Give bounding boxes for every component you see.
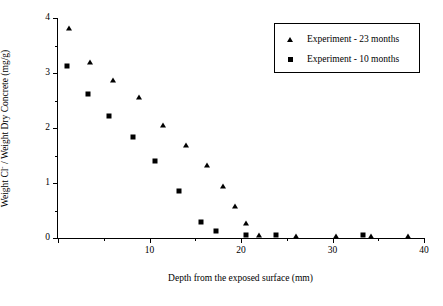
x-axis-tick <box>424 238 425 243</box>
y-axis-minor-tick <box>55 156 58 157</box>
scatter-chart: 0123410203040 Depth from the exposed sur… <box>0 0 443 306</box>
data-point-series-0 <box>204 162 210 167</box>
data-point-series-1 <box>176 189 181 194</box>
x-axis-tick <box>58 238 59 243</box>
data-point-series-1 <box>152 159 157 164</box>
data-point-series-0 <box>243 221 249 226</box>
data-point-series-1 <box>273 233 278 238</box>
data-point-series-0 <box>293 233 299 238</box>
x-axis-minor-tick <box>287 238 288 241</box>
x-axis-minor-tick <box>104 238 105 241</box>
x-axis-tick-label: 20 <box>236 246 246 256</box>
legend-entry-23-months: Experiment - 23 months <box>275 32 419 46</box>
y-axis-minor-tick <box>55 211 58 212</box>
data-point-series-0 <box>333 233 339 238</box>
y-axis-tick-label: 0 <box>45 233 50 243</box>
y-axis-tick <box>53 73 58 74</box>
data-point-series-0 <box>66 25 72 30</box>
legend-label-10-months: Experiment - 10 months <box>307 54 399 64</box>
y-axis-tick-label: 3 <box>45 68 50 78</box>
x-axis-tick-label: 10 <box>145 246 155 256</box>
y-axis-title-superscript: - <box>0 166 6 168</box>
y-axis-tick <box>53 183 58 184</box>
data-point-series-0 <box>368 233 374 238</box>
y-axis-title-pre: Weight Cl <box>0 169 10 208</box>
data-point-series-1 <box>198 219 203 224</box>
legend-label-23-months: Experiment - 23 months <box>307 34 399 44</box>
x-axis-tick-label: 30 <box>328 246 338 256</box>
y-axis-title: Weight Cl- / Weight Dry Concrete (mg/g) <box>0 18 14 239</box>
legend: Experiment - 23 months Experiment - 10 m… <box>274 23 420 73</box>
legend-entry-10-months: Experiment - 10 months <box>275 52 419 66</box>
data-point-series-0 <box>160 123 166 128</box>
x-axis-tick-label: 40 <box>419 246 429 256</box>
data-point-series-0 <box>136 95 142 100</box>
y-axis-tick <box>53 18 58 19</box>
data-point-series-0 <box>87 60 93 65</box>
x-axis-tick <box>150 238 151 243</box>
y-axis-tick-label: 4 <box>45 13 50 23</box>
data-point-series-0 <box>220 184 226 189</box>
data-point-series-1 <box>131 134 136 139</box>
data-point-series-0 <box>232 204 238 209</box>
x-axis-minor-tick <box>378 238 379 241</box>
data-point-series-1 <box>86 91 91 96</box>
y-axis-tick <box>53 128 58 129</box>
data-point-series-1 <box>360 233 365 238</box>
data-point-series-0 <box>110 78 116 83</box>
x-axis-title: Depth from the exposed surface (mm) <box>57 273 424 283</box>
data-point-series-1 <box>107 114 112 119</box>
y-axis-tick-label: 1 <box>45 178 50 188</box>
y-axis-minor-tick <box>55 46 58 47</box>
x-axis-tick <box>241 238 242 243</box>
data-point-series-0 <box>405 233 411 238</box>
square-marker-icon <box>281 57 299 62</box>
data-point-series-0 <box>256 233 262 238</box>
x-axis-tick <box>333 238 334 243</box>
data-point-series-1 <box>214 228 219 233</box>
triangle-marker-icon <box>281 37 299 42</box>
y-axis-tick-label: 2 <box>45 123 50 133</box>
data-point-series-0 <box>183 142 189 147</box>
data-point-series-1 <box>65 63 70 68</box>
y-axis-title-post: / Weight Dry Concrete (mg/g) <box>0 50 10 166</box>
data-point-series-1 <box>244 233 249 238</box>
y-axis-minor-tick <box>55 101 58 102</box>
x-axis-minor-tick <box>195 238 196 241</box>
